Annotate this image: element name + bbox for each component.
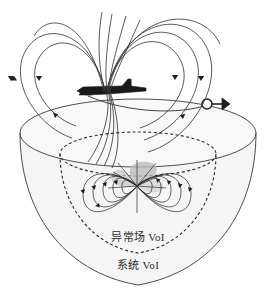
system-voi-hemisphere: [20, 99, 256, 285]
towed-bird-fin: [222, 98, 230, 110]
magnetic-dipole-voi-diagram: 异常场 VoI 系统 VoI: [0, 0, 271, 297]
anomaly-voi-label: 异常场 VoI: [111, 230, 165, 243]
system-voi-label: 系统 VoI: [117, 259, 159, 271]
field-line-right-4: [108, 19, 220, 92]
towed-bird-body: [202, 99, 212, 109]
field-line-left-3: [34, 23, 104, 92]
